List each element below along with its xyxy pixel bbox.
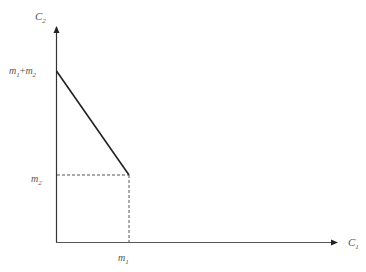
budget-constraint-diagram: C2 C1 m1+m2 m2 m1 (0, 0, 366, 272)
y-axis-label: C2 (35, 10, 46, 25)
budget-line (57, 71, 130, 175)
y-kink-label: m2 (31, 173, 42, 187)
y-intercept-label: m1+m2 (9, 65, 37, 79)
x-kink-label: m1 (118, 252, 129, 266)
x-axis-label: C1 (348, 236, 359, 251)
